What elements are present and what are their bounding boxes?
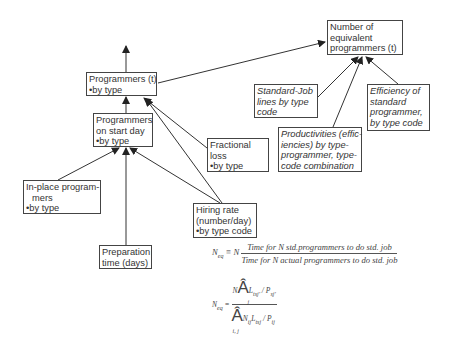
node-standard-job-lines: Standard-Job lines by type code [254,84,318,118]
node-programmers-t: Programmers (t) by type [86,72,157,96]
sum-symbol: Â [232,306,243,325]
node-text: programmers (t) [330,43,400,54]
node-preparation-time: Preparation time (days) [99,245,152,269]
formula1-numerator: Time for N std.programmers to do std. jo… [241,242,397,254]
edge-std-job-to-equiv [318,57,358,97]
node-text: (number/day) [196,216,254,227]
node-text: iencies) by type- [281,140,359,151]
node-efficiency-standard-programmer: Efficiency of standard programmer, by ty… [367,84,430,131]
formula1-op: ≡ N [226,247,240,257]
node-text: equivalent [330,33,400,44]
formula2-fraction: NÂLtsj' / Psj' j ÂNijLtsj / Pij i, j [232,278,277,333]
node-text: code combination [281,161,359,172]
edge-frac-loss-to-prog-t [144,98,207,148]
node-text: Productivities (effic- [281,129,359,140]
sum-symbol: Â [238,278,249,297]
formula1-fraction: Time for N std.programmers to do std. jo… [241,242,397,265]
formula2-op: = [225,300,230,309]
node-text: lines by type [257,97,315,108]
node-text: Standard-Job [257,86,315,97]
edge-in-place-to-start-day [58,148,119,180]
formula2-lhs: Neq [212,300,223,309]
node-text: Number of [330,22,400,33]
node-text: programmer, [370,107,427,118]
node-text: Efficiency of [370,86,427,97]
node-fractional-loss: Fractional loss by type [207,138,269,172]
node-hiring-rate: Hiring rate (number/day) by type code [193,203,257,238]
node-text: Preparation [102,247,149,258]
node-text: by type code [370,118,427,129]
node-equivalent-programmers: Number of equivalent programmers (t) [327,20,403,55]
node-bullet: by type [210,161,266,172]
formula2-denominator: ÂNijLtsj / Pij i, j [232,305,277,333]
node-programmers-start-day: Programmers on start day by type [93,113,153,147]
node-text: Hiring rate [196,205,254,216]
node-text: Fractional [210,140,266,151]
sum-index: i, j [233,328,239,334]
edge-efficiency-to-equiv [366,57,398,84]
edge-prog-t-to-equiv [158,42,325,83]
node-in-place-programmers: In-place program- mers by type [23,180,101,214]
node-text: Programmers (t) [89,74,154,85]
node-text: In-place program- [26,182,98,193]
node-text: standard [370,97,427,108]
node-text: loss [210,151,266,162]
node-text: mers [26,193,98,204]
formula2-numerator: NÂLtsj' / Psj' j [232,278,277,305]
formula1-lhs: Neq [212,247,223,257]
formula1-denominator: Time for N actual programmers to do std.… [241,254,397,265]
node-text: Programmers [96,115,150,126]
node-text: code [257,107,315,118]
formula-equivalent-computation: Neq = NÂLtsj' / Psj' j ÂNijLtsj / Pij i,… [212,278,277,333]
node-bullet: by type [89,85,154,96]
formula-equivalent-definition: Neq ≡ N Time for N std.programmers to do… [212,242,397,265]
node-text: on start day [96,126,150,137]
node-bullet: by type code [196,226,254,237]
node-bullet: by type [96,136,150,147]
node-productivities: Productivities (effic- iencies) by type-… [278,127,362,172]
node-bullet: by type [26,203,98,214]
node-text: programmer, type- [281,150,359,161]
node-text: time (days) [102,258,149,269]
